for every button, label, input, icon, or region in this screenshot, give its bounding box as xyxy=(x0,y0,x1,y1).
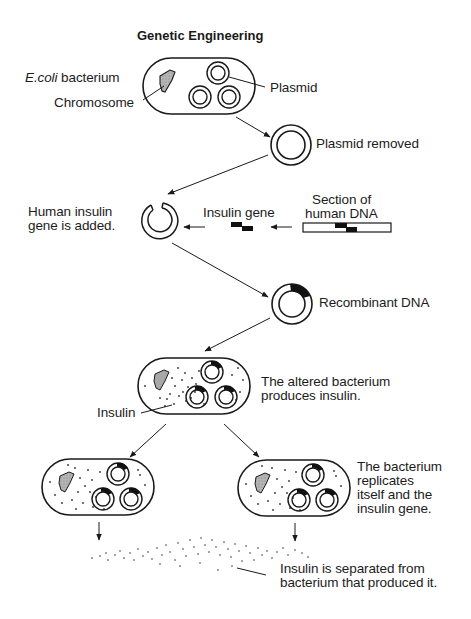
plasmid-icon xyxy=(189,86,211,108)
chromosome-label: Chromosome xyxy=(54,96,134,110)
diagram-title: Genetic Engineering xyxy=(137,28,263,43)
human-insulin-label-line1: Human insulin xyxy=(28,205,112,219)
plasmid-label: Plasmid xyxy=(270,81,317,95)
human-insulin-label-line2: gene is added. xyxy=(28,219,115,233)
separated-label-line2: bacterium that produced it. xyxy=(280,576,437,590)
chromosome-shape xyxy=(160,70,175,92)
daughter-bacterium-right xyxy=(238,460,350,516)
human-dna-section xyxy=(303,223,391,232)
recombinant-plasmid-icon xyxy=(201,361,223,383)
replicates-label-line1: The bacterium xyxy=(357,460,442,474)
section-label-line2: human DNA xyxy=(305,207,378,221)
plasmid-removed-label: Plasmid removed xyxy=(316,137,419,151)
altered-bacterium xyxy=(138,358,250,414)
recombinant-plasmid xyxy=(272,284,312,324)
ecoli-bacterium xyxy=(143,58,265,114)
separated-insulin-particles xyxy=(91,537,309,571)
insulin-gene-fragment xyxy=(231,222,253,231)
removed-plasmid xyxy=(271,125,311,165)
ecoli-label-italic: E.coli xyxy=(25,70,57,85)
insulin-label: Insulin xyxy=(97,406,135,420)
recombinant-plasmid-icon xyxy=(215,386,237,408)
replicates-label-line2: replicates xyxy=(357,474,414,488)
plasmid-icon xyxy=(218,86,240,108)
insulin-gene-label: Insulin gene xyxy=(203,206,275,220)
altered-label-line2: produces insulin. xyxy=(261,389,361,403)
ecoli-label-rest: bacterium xyxy=(57,70,119,85)
recombinant-label: Recombinant DNA xyxy=(319,296,429,310)
separated-label-line1: Insulin is separated from xyxy=(280,562,425,576)
opened-plasmid xyxy=(142,203,178,239)
section-label-line1: Section of xyxy=(312,193,371,207)
replicates-label-line4: insulin gene. xyxy=(357,502,432,516)
ecoli-label: E.coli bacterium xyxy=(25,71,119,85)
recombinant-plasmid-icon xyxy=(186,386,208,408)
plasmid-icon xyxy=(207,62,229,84)
replicates-label-line3: itself and the xyxy=(357,488,432,502)
altered-label-line1: The altered bacterium xyxy=(261,375,390,389)
daughter-bacterium-left xyxy=(42,459,154,515)
